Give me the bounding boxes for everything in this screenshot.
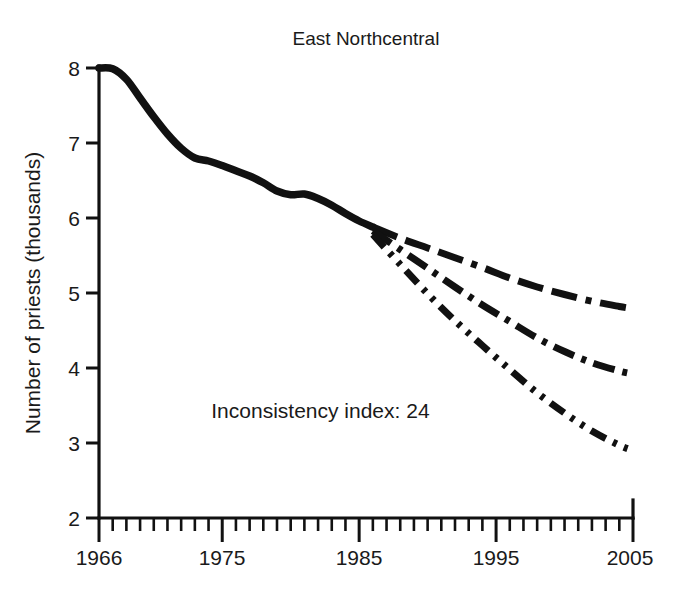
y-tick-label-5: 5 xyxy=(68,282,80,305)
y-axis-ticks xyxy=(86,68,99,518)
x-tick-label-1985: 1985 xyxy=(336,546,383,569)
inconsistency-index-annotation: Inconsistency index: 24 xyxy=(211,399,430,422)
y-tick-label-7: 7 xyxy=(68,132,80,155)
y-tick-label-8: 8 xyxy=(68,57,80,80)
y-axis-tick-labels: 8 7 6 5 4 3 2 xyxy=(68,57,80,530)
x-tick-label-2005: 2005 xyxy=(607,546,654,569)
x-tick-label-1966: 1966 xyxy=(76,546,123,569)
y-tick-label-3: 3 xyxy=(68,432,80,455)
y-axis-title: Number of priests (thousands) xyxy=(21,152,44,434)
chart-title: East Northcentral xyxy=(293,28,440,49)
series-projection-middle-line xyxy=(373,231,633,374)
y-tick-label-6: 6 xyxy=(68,207,80,230)
series-projection-high-line xyxy=(373,227,633,309)
y-tick-label-2: 2 xyxy=(68,507,80,530)
x-axis-tick-labels: 1966 1975 1985 1995 2005 xyxy=(76,546,654,569)
chart-svg: East Northcentral Number of priests (tho… xyxy=(0,0,685,601)
x-tick-label-1995: 1995 xyxy=(473,546,520,569)
series-historical-line xyxy=(99,68,373,227)
y-tick-label-4: 4 xyxy=(68,357,80,380)
x-tick-label-1975: 1975 xyxy=(199,546,246,569)
x-axis-ticks xyxy=(99,518,633,542)
chart-figure: East Northcentral Number of priests (tho… xyxy=(0,0,685,601)
